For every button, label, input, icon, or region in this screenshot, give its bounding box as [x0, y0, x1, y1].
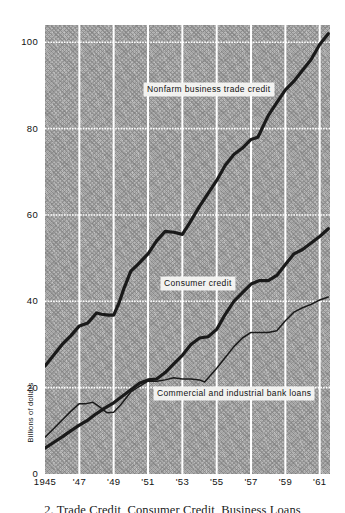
x-axis-tick-47: '47: [62, 477, 96, 487]
figure-chart-credit-trends: 020406080100 1945'47'49'51'53'55'57'59'6…: [0, 0, 345, 513]
y-axis-title: Billions of dollars: [26, 377, 35, 449]
x-axis-tick-57: '57: [234, 477, 268, 487]
x-axis-tick-61: '61: [303, 477, 337, 487]
x-axis-tick-1945: 1945: [28, 477, 62, 487]
y-axis-tick-60: 60: [4, 210, 38, 220]
y-axis-tick-100: 100: [4, 37, 38, 47]
series-label-nonfarm-business-trade-credit: Nonfarm business trade credit: [144, 83, 274, 96]
x-axis-tick-49: '49: [97, 477, 131, 487]
x-axis-tick-53: '53: [165, 477, 199, 487]
x-axis-tick-59: '59: [268, 477, 302, 487]
series-label-consumer-credit: Consumer credit: [161, 277, 235, 290]
y-axis-tick-80: 80: [4, 124, 38, 134]
x-axis-tick-55: '55: [200, 477, 234, 487]
series-label-commercial-industrial-bank-loans: Commercial and industrial bank loans: [154, 387, 314, 400]
x-axis-tick-51: '51: [131, 477, 165, 487]
y-axis-tick-40: 40: [4, 296, 38, 306]
figure-caption: 2. Trade Credit, Consumer Credit, Busine…: [0, 503, 345, 513]
